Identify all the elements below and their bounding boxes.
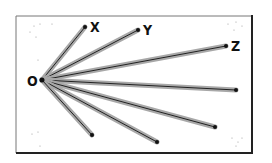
origin-point (40, 78, 45, 83)
ray-ray-6 (42, 80, 159, 144)
ray-label-z: Z (231, 38, 240, 54)
ray-endpoint-dot (83, 25, 87, 29)
origin-label: O (27, 73, 38, 89)
ray-endpoint-dot (155, 140, 159, 144)
vector-diagram: O XYZ (0, 0, 272, 163)
rays (40, 25, 239, 144)
ray-endpoint-dot (213, 125, 217, 129)
ray-endpoint-dot (90, 133, 94, 137)
ray-label-y: Y (142, 22, 153, 38)
ray-label-x: X (90, 19, 100, 35)
ray-endpoint-dot (136, 28, 140, 32)
ray-endpoint-dot (234, 88, 238, 92)
ray-endpoint-dot (224, 44, 228, 48)
